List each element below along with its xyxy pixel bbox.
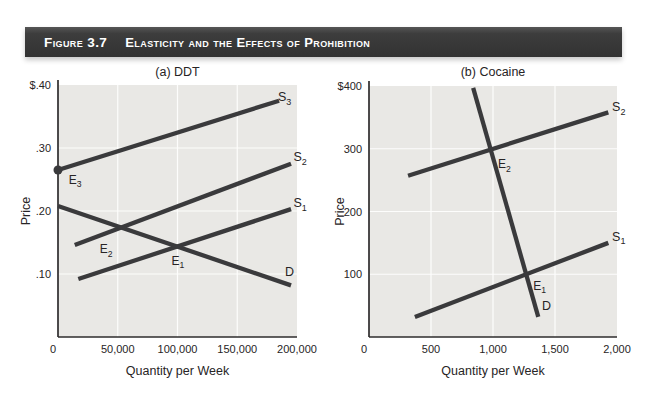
y-tick-label: .10 bbox=[36, 268, 51, 280]
x-tick-label: 50,000 bbox=[101, 343, 135, 355]
y-tick-label: $.40 bbox=[30, 79, 51, 91]
x-tick-label: 500 bbox=[422, 343, 440, 355]
x-tick-label: 100,000 bbox=[158, 343, 198, 355]
x-tick-label: 0 bbox=[361, 343, 367, 355]
y-tick-label: .30 bbox=[36, 142, 51, 154]
figure-number: Figure 3.7 bbox=[44, 35, 107, 50]
x-axis-label: Quantity per Week bbox=[441, 364, 545, 378]
y-tick-label: .20 bbox=[36, 205, 51, 217]
curve-label-D: D bbox=[285, 265, 294, 279]
chart-title: (b) Cocaine bbox=[461, 65, 526, 79]
y-tick-label: 300 bbox=[344, 143, 362, 155]
x-tick-label: 0 bbox=[50, 343, 56, 355]
chart-cocaine: S2S1DE2E105001,0001,5002,000$40030020010… bbox=[330, 62, 651, 393]
x-axis-label: Quantity per Week bbox=[126, 364, 230, 378]
y-axis-label: Price bbox=[333, 197, 347, 226]
equilibrium-dot-E3 bbox=[54, 166, 63, 175]
x-tick-label: 2,000 bbox=[603, 343, 631, 355]
chart-title: (a) DDT bbox=[155, 65, 200, 79]
y-tick-label: 100 bbox=[344, 268, 362, 280]
chart-ddt: S3S2S1DE3E2E1050,000100,000150,000200,00… bbox=[8, 62, 330, 393]
y-axis-label: Price bbox=[19, 197, 33, 226]
chart-svg: S3S2S1DE3E2E1050,000100,000150,000200,00… bbox=[8, 62, 330, 392]
figure-title: Elasticity and the Effects of Prohibitio… bbox=[125, 35, 370, 50]
chart-svg: S2S1DE2E105001,0001,5002,000$40030020010… bbox=[330, 62, 651, 392]
figure-header-bar: Figure 3.7 Elasticity and the Effects of… bbox=[25, 27, 622, 57]
x-tick-label: 1,500 bbox=[541, 343, 569, 355]
charts-row: S3S2S1DE3E2E1050,000100,000150,000200,00… bbox=[8, 62, 651, 393]
x-tick-label: 200,000 bbox=[277, 343, 317, 355]
x-tick-label: 150,000 bbox=[217, 343, 257, 355]
x-tick-label: 1,000 bbox=[479, 343, 507, 355]
y-tick-label: $400 bbox=[338, 80, 362, 92]
figure-page: Figure 3.7 Elasticity and the Effects of… bbox=[0, 0, 651, 393]
curve-label-D: D bbox=[542, 299, 551, 313]
